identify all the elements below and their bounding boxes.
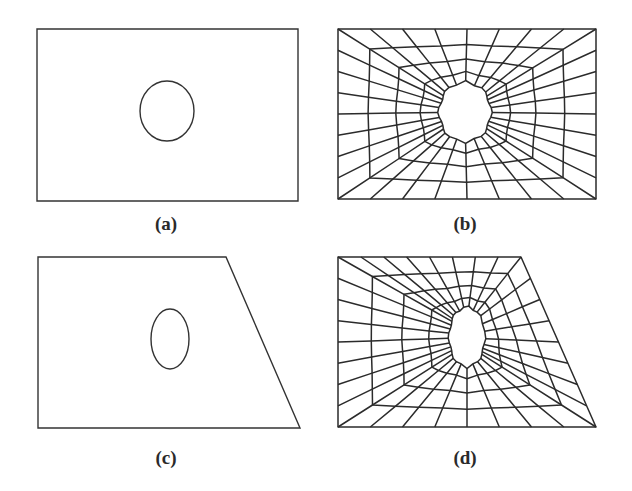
panel-c-geometry	[38, 257, 300, 428]
mesh-radial-line	[466, 144, 467, 200]
mesh-radial-line	[370, 29, 444, 91]
panel-label-c: (c)	[155, 447, 176, 469]
hole-edge	[438, 81, 493, 144]
hole-outline	[151, 309, 189, 369]
mesh-radial-line	[486, 339, 559, 342]
panel-a-geometry	[37, 29, 298, 201]
mesh-radial-line	[338, 338, 448, 342]
mesh-radial-line	[338, 29, 443, 96]
mesh-radial-line	[338, 300, 450, 329]
mesh-radial-line	[403, 29, 450, 88]
mesh-radial-line	[481, 136, 531, 199]
panel-label-b: (b)	[453, 213, 476, 235]
domain-boundary	[38, 257, 300, 428]
mesh-radial-line	[338, 129, 444, 199]
figure: (a) (b) (c) (d)	[0, 0, 632, 491]
mesh-radial-line	[338, 113, 438, 115]
mesh-radial-line	[338, 321, 449, 333]
mesh-radial-line	[338, 278, 451, 325]
mesh-radial-line	[403, 137, 450, 199]
figure-canvas	[0, 0, 632, 491]
mesh-radial-line	[482, 354, 596, 427]
mesh-radial-line	[482, 352, 586, 406]
mesh-radial-line	[482, 29, 532, 88]
mesh-radial-line	[466, 29, 467, 81]
mesh-radial-line	[492, 113, 596, 115]
mesh-radial-line	[477, 257, 521, 312]
panel-b-mesh	[338, 29, 596, 199]
hole-edge	[448, 306, 486, 368]
domain-boundary	[37, 29, 298, 201]
hole-outline	[140, 81, 194, 141]
mesh-radial-line	[384, 257, 454, 315]
panel-label-d: (d)	[453, 447, 476, 469]
panel-label-a: (a)	[155, 213, 177, 235]
panel-d-mesh	[338, 257, 596, 427]
mesh-radial-line	[487, 50, 596, 100]
mesh-radial-line	[338, 50, 443, 99]
